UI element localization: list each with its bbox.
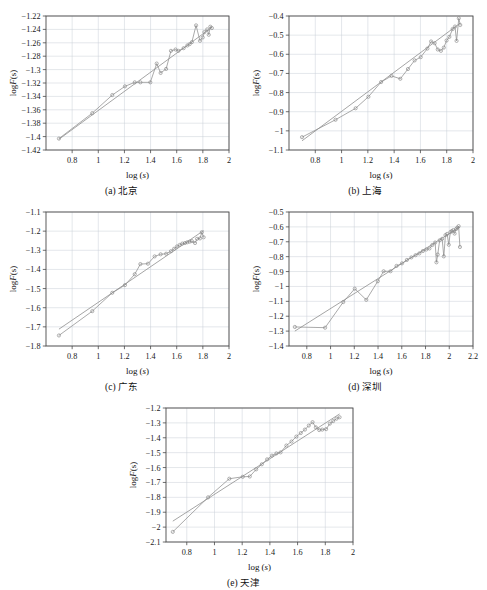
y-tick-label: −1.22: [22, 12, 41, 21]
x-tick-label: 1.2: [119, 352, 129, 361]
y-tick-label: −0.7: [269, 238, 284, 247]
x-tick-label: 1.4: [373, 352, 383, 361]
y-tick-label: −1.3: [146, 419, 161, 428]
y-tick-label: −1.6: [146, 464, 161, 473]
x-tick-label: 1.6: [397, 352, 407, 361]
y-axis-title: logF(s): [251, 266, 261, 293]
y-tick-label: −1.1: [269, 146, 284, 155]
y-axis-title: logF(s): [128, 462, 138, 489]
panel-d-plot: 0.811.21.41.61.822.2−1.4−1.3−1.2−1.1−1−0…: [243, 198, 487, 394]
x-tick-label: 2: [351, 548, 355, 557]
x-axis: 0.811.21.41.61.82: [310, 150, 475, 165]
y-tick-label: −0.6: [269, 223, 284, 232]
y-tick-label: −1.4: [269, 342, 284, 351]
y-axis: −1.4−1.3−1.2−1.1−1−0.9−0.8−0.7−0.6−0.5: [269, 208, 289, 351]
x-tick-label: 1.4: [145, 156, 155, 165]
y-tick-label: −1.2: [26, 227, 41, 236]
x-tick-label: 0.8: [302, 352, 312, 361]
x-tick-label: 1: [96, 156, 100, 165]
x-tick-label: 1: [212, 548, 216, 557]
x-tick-label: 1: [340, 156, 344, 165]
x-tick-label: 1.8: [198, 156, 208, 165]
x-axis-title: log (s): [370, 170, 393, 180]
y-tick-label: −0.9: [269, 108, 284, 117]
y-tick-label: −1.32: [22, 79, 41, 88]
panel-d: 0.811.21.41.61.822.2−1.4−1.3−1.2−1.1−1−0…: [243, 198, 487, 394]
y-tick-label: −1.3: [269, 327, 284, 336]
y-tick-label: −1.26: [22, 39, 41, 48]
x-tick-label: 1: [96, 352, 100, 361]
y-tick-label: −0.7: [269, 69, 284, 78]
y-tick-label: −1.1: [26, 208, 41, 217]
x-axis-title: log (s): [126, 366, 149, 376]
y-tick-label: −0.4: [269, 12, 284, 21]
panel-c-caption: (c) 广东: [0, 379, 243, 393]
y-tick-label: −0.8: [269, 89, 284, 98]
y-tick-label: −1.4: [26, 265, 41, 274]
y-tick-label: −0.6: [269, 50, 284, 59]
y-tick-label: −1.5: [146, 449, 161, 458]
x-tick-label: 1: [329, 352, 333, 361]
x-tick-label: 1.6: [415, 156, 425, 165]
x-tick-label: 1.4: [145, 352, 155, 361]
x-tick-label: 2: [447, 352, 451, 361]
y-axis: −1.42−1.4−1.38−1.36−1.34−1.32−1.3−1.28−1…: [22, 12, 46, 155]
x-tick-label: 1.8: [442, 156, 452, 165]
y-tick-label: −1.5: [26, 285, 41, 294]
y-axis: −1.8−1.7−1.6−1.5−1.4−1.3−1.2−1.1: [26, 208, 46, 351]
y-tick-label: −1.36: [22, 106, 41, 115]
y-axis-title: logF(s): [8, 70, 18, 97]
x-axis-title: log (s): [248, 562, 271, 572]
y-tick-label: −1.8: [146, 493, 161, 502]
x-tick-label: 1.4: [265, 548, 275, 557]
panel-d-caption: (d) 深圳: [243, 379, 487, 393]
y-tick-label: −1.42: [22, 146, 41, 155]
x-tick-label: 1.2: [363, 156, 373, 165]
y-tick-label: −1.8: [26, 342, 41, 351]
x-tick-label: 0.8: [182, 548, 192, 557]
x-axis: 0.811.21.41.61.82: [67, 150, 231, 165]
x-axis: 0.811.21.41.61.822.2: [302, 346, 478, 361]
x-tick-label: 1.2: [237, 548, 247, 557]
y-tick-label: −1.2: [146, 404, 161, 413]
y-tick-label: −0.5: [269, 31, 284, 40]
y-tick-label: −0.9: [269, 268, 284, 277]
x-tick-label: 1.2: [349, 352, 359, 361]
panel-c: 0.811.21.41.61.82−1.8−1.7−1.6−1.5−1.4−1.…: [0, 198, 243, 394]
x-tick-label: 2.2: [468, 352, 478, 361]
panel-a: 0.811.21.41.61.82−1.42−1.4−1.38−1.36−1.3…: [0, 2, 243, 198]
x-tick-label: 1.8: [198, 352, 208, 361]
x-tick-label: 2: [471, 156, 475, 165]
y-tick-label: −1.7: [146, 478, 161, 487]
y-tick-label: −1.34: [22, 92, 41, 101]
y-tick-label: −1: [275, 282, 284, 291]
x-tick-label: 1.6: [292, 548, 302, 557]
x-tick-label: 1.6: [172, 156, 182, 165]
panel-e-caption: (e) 天津: [120, 575, 367, 589]
x-axis-title: log (s): [126, 170, 149, 180]
y-tick-label: −0.5: [269, 208, 284, 217]
x-tick-label: 1.2: [119, 156, 129, 165]
x-axis: 0.811.21.41.61.82: [67, 346, 231, 361]
y-axis: −1.1−1−0.9−0.8−0.7−0.6−0.5−0.4: [269, 12, 289, 155]
y-tick-label: −1.24: [22, 25, 41, 34]
panel-a-plot: 0.811.21.41.61.82−1.42−1.4−1.38−1.36−1.3…: [0, 2, 243, 198]
x-tick-label: 2: [227, 352, 231, 361]
y-tick-label: −0.8: [269, 253, 284, 262]
y-tick-label: −1.38: [22, 119, 41, 128]
x-tick-label: 0.8: [67, 352, 77, 361]
panel-e: 0.811.21.41.61.82−2.1−2−1.9−1.8−1.7−1.6−…: [120, 394, 367, 590]
y-tick-label: −1.6: [26, 304, 41, 313]
y-tick-label: −1.28: [22, 52, 41, 61]
y-tick-label: −1.1: [269, 297, 284, 306]
x-tick-label: 2: [227, 156, 231, 165]
y-axis-title: logF(s): [8, 266, 18, 293]
y-tick-label: −1.4: [26, 133, 41, 142]
y-tick-label: −1.3: [26, 66, 41, 75]
x-tick-label: 1.8: [320, 548, 330, 557]
panel-a-caption: (a) 北京: [0, 183, 243, 197]
y-tick-label: −1.9: [146, 508, 161, 517]
x-tick-label: 1.6: [172, 352, 182, 361]
y-axis-title: logF(s): [251, 70, 261, 97]
panel-b-caption: (b) 上海: [243, 183, 487, 197]
